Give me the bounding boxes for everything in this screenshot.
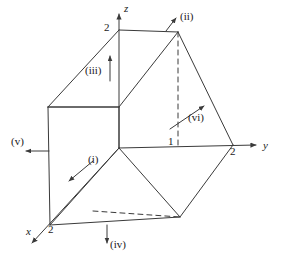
face-label-v: (v) <box>11 136 24 147</box>
tick-label-y-2: 2 <box>230 146 236 157</box>
tick-label-z-2: 2 <box>104 22 110 33</box>
normal-arrow-ii <box>166 18 176 31</box>
prism-hidden-edge-bottom-diagonal <box>93 211 180 217</box>
prism-edge-top-back <box>119 30 178 32</box>
prism-edge-front-crease <box>119 148 180 217</box>
prism-edge-top-left-slant <box>48 30 119 107</box>
prism-edge-top-front-slant <box>119 32 178 107</box>
tick-label-y-1: 1 <box>168 136 174 147</box>
axis-label-x: x <box>26 226 31 237</box>
axis-label-z: z <box>124 3 128 14</box>
prism-diagram-figure: x y z 2 2 1 2 (i) (ii) (iii) (iv) (v) (v… <box>0 0 281 264</box>
prism-edge-right-lower <box>180 145 233 217</box>
face-label-iii: (iii) <box>85 65 102 76</box>
face-label-vi: (vi) <box>188 112 204 123</box>
tick-label-x-2: 2 <box>48 224 54 235</box>
prism-wireframe-svg <box>0 0 281 264</box>
face-label-ii: (ii) <box>180 11 193 22</box>
face-label-i: (i) <box>88 154 98 165</box>
prism-edge-bottom-front <box>50 217 180 225</box>
face-label-iv: (iv) <box>110 239 126 250</box>
prism-edge-left-vertical <box>48 107 50 225</box>
prism-edge-front-slant-left <box>50 148 119 225</box>
prism-edge-right-upper <box>178 32 233 145</box>
axis-label-y: y <box>263 140 268 151</box>
